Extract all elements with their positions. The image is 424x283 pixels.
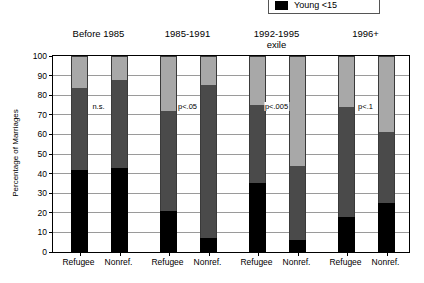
y-axis-tick-label: 10 xyxy=(38,228,47,237)
plot-area: 0102030405060708090100 xyxy=(52,55,410,253)
y-axis-tick xyxy=(49,193,53,194)
x-axis-tick xyxy=(258,252,259,256)
group-header-line1: Before 1985 xyxy=(73,28,125,39)
y-axis-tick-label: 30 xyxy=(38,189,47,198)
significance-annotation: p<.005 xyxy=(264,102,289,111)
x-axis-tick xyxy=(80,252,81,256)
bar-segment-old xyxy=(338,56,355,107)
group-header-line1: 1996+ xyxy=(352,28,379,39)
bar-segment-young xyxy=(249,183,266,252)
x-axis-tick xyxy=(347,252,348,256)
x-axis-tick xyxy=(209,252,210,256)
y-gridline xyxy=(53,134,409,135)
legend-swatch-icon xyxy=(275,1,288,10)
y-gridline xyxy=(53,212,409,213)
significance-annotation: n.s. xyxy=(91,102,105,111)
y-axis-tick xyxy=(49,212,53,213)
bar-segment-mid xyxy=(249,105,266,183)
group-header-line1: 1985-1991 xyxy=(165,28,210,39)
y-gridline xyxy=(53,114,409,115)
bar-segment-mid xyxy=(111,80,128,168)
y-axis-tick xyxy=(49,95,53,96)
y-axis-tick xyxy=(49,134,53,135)
y-axis-tick xyxy=(49,154,53,155)
chart-legend: Young <15 xyxy=(268,0,380,14)
bar-segment-old xyxy=(111,56,128,80)
x-axis-label: Nonref. xyxy=(363,257,409,267)
stacked-bar xyxy=(200,56,217,252)
x-axis-tick xyxy=(298,252,299,256)
bar-segment-old xyxy=(160,56,177,111)
group-header-line1: 1992-1995 xyxy=(254,28,299,39)
bar-segment-young xyxy=(111,168,128,252)
y-gridline xyxy=(53,232,409,233)
bar-segment-young xyxy=(338,217,355,252)
bar-segment-mid xyxy=(160,111,177,211)
group-header-2: 1985-1991 xyxy=(138,28,238,39)
x-axis-label: Nonref. xyxy=(274,257,320,267)
y-axis-tick-label: 60 xyxy=(38,130,47,139)
y-gridline xyxy=(53,173,409,174)
y-axis-tick-label: 80 xyxy=(38,91,47,100)
y-axis-title: Percentage of Marriages xyxy=(9,55,23,251)
bar-segment-mid xyxy=(289,166,306,240)
group-header-3: 1992-1995 exile xyxy=(227,28,327,50)
x-axis-tick xyxy=(387,252,388,256)
bar-segment-old xyxy=(200,56,217,85)
stacked-bar xyxy=(289,56,306,252)
bar-segment-mid xyxy=(200,85,217,238)
bar-segment-young xyxy=(160,211,177,252)
x-axis-tick xyxy=(169,252,170,256)
bar-segment-mid xyxy=(378,132,395,203)
group-header-1: Before 1985 xyxy=(49,28,149,39)
stacked-bar xyxy=(111,56,128,252)
stacked-bar xyxy=(249,56,266,252)
y-axis-tick-label: 90 xyxy=(38,71,47,80)
y-axis-tick-label: 0 xyxy=(42,248,47,257)
stacked-bar xyxy=(71,56,88,252)
y-gridline xyxy=(53,154,409,155)
bar-segment-old xyxy=(71,56,88,88)
y-gridline xyxy=(53,95,409,96)
legend-item-label: Young <15 xyxy=(294,0,337,10)
y-axis-tick xyxy=(49,232,53,233)
y-axis-tick xyxy=(49,56,53,57)
significance-annotation: p<.05 xyxy=(177,102,198,111)
bar-segment-young xyxy=(200,238,217,252)
bar-segment-old xyxy=(289,56,306,166)
group-header-4: 1996+ xyxy=(316,28,416,39)
significance-annotation: p<.1 xyxy=(357,102,374,111)
x-axis-label: Nonref. xyxy=(96,257,142,267)
bar-segment-young xyxy=(378,203,395,252)
group-header-line2: exile xyxy=(227,39,327,50)
y-axis-tick xyxy=(49,173,53,174)
bar-segment-old xyxy=(378,56,395,132)
y-axis-tick-label: 70 xyxy=(38,110,47,119)
stacked-bar xyxy=(378,56,395,252)
bar-segment-young xyxy=(289,240,306,252)
bar-segment-mid xyxy=(71,88,88,169)
legend-item-young: Young <15 xyxy=(275,0,337,10)
bar-segment-mid xyxy=(338,107,355,217)
y-gridline xyxy=(53,75,409,76)
stacked-bar xyxy=(338,56,355,252)
stacked-bar xyxy=(160,56,177,252)
y-gridline xyxy=(53,193,409,194)
y-axis-tick xyxy=(49,114,53,115)
bar-segment-old xyxy=(249,56,266,105)
bar-segment-young xyxy=(71,170,88,252)
y-axis-tick-label: 20 xyxy=(38,208,47,217)
x-axis-label: Nonref. xyxy=(185,257,231,267)
y-axis-tick xyxy=(49,252,53,253)
y-axis-tick xyxy=(49,75,53,76)
y-axis-tick-label: 100 xyxy=(33,52,47,61)
y-axis-tick-label: 50 xyxy=(38,150,47,159)
x-axis-tick xyxy=(120,252,121,256)
y-axis-tick-label: 40 xyxy=(38,169,47,178)
